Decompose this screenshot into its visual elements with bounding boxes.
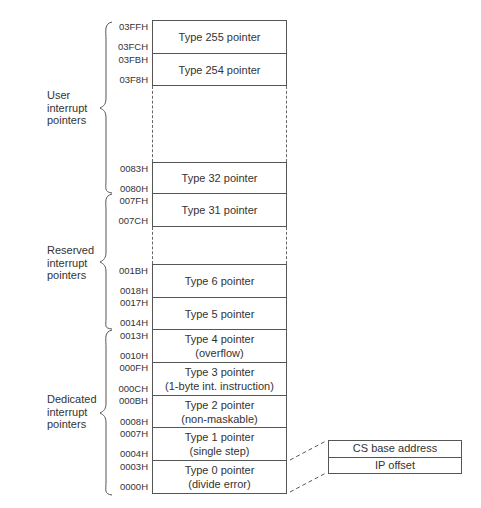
label-line: pointers	[47, 418, 97, 431]
entry-sublabel: (divide error)	[188, 477, 250, 491]
entry-sublabel: (non-maskable)	[181, 412, 257, 426]
address-high: 001BH	[104, 266, 148, 276]
address-high: 03FFH	[104, 22, 148, 32]
cs-base-address-cell: CS base address	[328, 440, 462, 458]
address-low: 0018H	[104, 286, 148, 296]
address-low: 03F8H	[104, 75, 148, 85]
entry-type-31: Type 31 pointer	[152, 193, 287, 227]
entry-sublabel: (single step)	[190, 444, 250, 458]
entry-type-3: Type 3 pointer (1-byte int. instruction)	[152, 362, 287, 396]
entry-label: Type 254 pointer	[179, 63, 261, 77]
group-label-user: User interrupt pointers	[47, 89, 87, 127]
address-high: 000FH	[104, 363, 148, 373]
address-high: 0083H	[104, 164, 148, 174]
ip-offset-cell: IP offset	[328, 457, 462, 474]
address-high: 000BH	[104, 396, 148, 406]
group-label-dedicated: Dedicated interrupt pointers	[47, 393, 97, 431]
entry-type-2: Type 2 pointer (non-maskable)	[152, 395, 287, 428]
address-high: 007FH	[104, 196, 148, 206]
address-high: 0017H	[104, 298, 148, 308]
entry-label: Type 3 pointer	[185, 365, 255, 379]
address-high: 0007H	[104, 429, 148, 439]
entry-label: Type 31 pointer	[182, 203, 258, 217]
label-line: interrupt	[47, 102, 87, 115]
label-line: Reserved	[47, 244, 94, 257]
group-label-reserved: Reserved interrupt pointers	[47, 244, 94, 282]
entry-label: Type 6 pointer	[185, 274, 255, 288]
address-low: 007CH	[104, 216, 148, 226]
label-line: pointers	[47, 269, 94, 282]
address-low: 000CH	[104, 384, 148, 394]
label-line: interrupt	[47, 257, 94, 270]
entry-label: Type 0 pointer	[185, 463, 255, 477]
entry-label: Type 2 pointer	[185, 398, 255, 412]
connector-bottom	[290, 473, 326, 492]
entry-type-6: Type 6 pointer	[152, 264, 287, 298]
label-line: User	[47, 89, 87, 102]
entry-type-254: Type 254 pointer	[152, 53, 287, 86]
address-low: 0080H	[104, 184, 148, 194]
address-low: 0008H	[104, 417, 148, 427]
label-line: Dedicated	[47, 393, 97, 406]
label-line: pointers	[47, 114, 87, 127]
entry-label: Type 5 pointer	[185, 307, 255, 321]
address-low: 03FCH	[104, 42, 148, 52]
entry-type-32: Type 32 pointer	[152, 162, 287, 194]
address-low: 0000H	[104, 482, 148, 492]
reserved-brace-icon	[100, 194, 112, 329]
address-high: 03FBH	[104, 55, 148, 65]
entry-type-0: Type 0 pointer (divide error)	[152, 460, 287, 494]
address-low: 0004H	[104, 449, 148, 459]
entry-sublabel: (overflow)	[195, 346, 243, 360]
entry-label: Type 255 pointer	[179, 30, 261, 44]
entry-type-255: Type 255 pointer	[152, 20, 287, 54]
gap-reserved	[152, 227, 287, 264]
address-high: 0003H	[104, 462, 148, 472]
entry-label: Type 1 pointer	[185, 430, 255, 444]
label-line: interrupt	[47, 406, 97, 419]
entry-type-4: Type 4 pointer (overflow)	[152, 329, 287, 363]
address-low: 0014H	[104, 318, 148, 328]
entry-label: Type 4 pointer	[185, 332, 255, 346]
entry-sublabel: (1-byte int. instruction)	[165, 379, 274, 393]
gap-user	[152, 86, 287, 162]
address-high: 0013H	[104, 331, 148, 341]
entry-type-1: Type 1 pointer (single step)	[152, 427, 287, 461]
entry-type-5: Type 5 pointer	[152, 297, 287, 330]
entry-label: Type 32 pointer	[182, 171, 258, 185]
connector-top	[290, 441, 326, 460]
address-low: 0010H	[104, 351, 148, 361]
